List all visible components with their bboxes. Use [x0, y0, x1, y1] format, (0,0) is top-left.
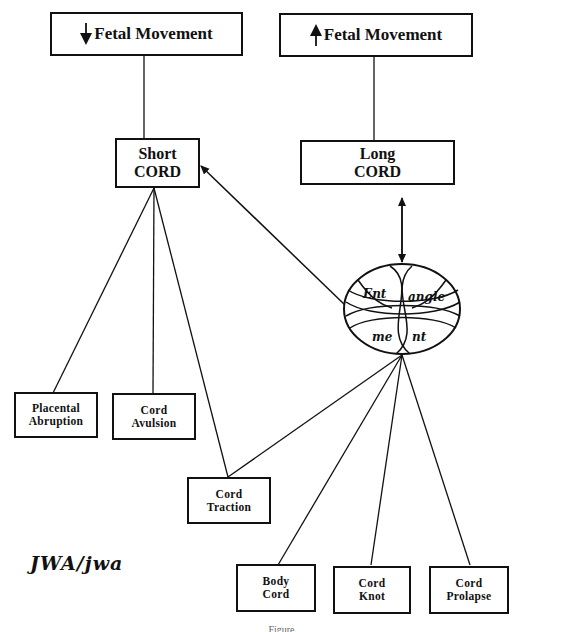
entanglement-label-me: me [372, 330, 392, 344]
outcome-line2: Abruption [29, 415, 83, 428]
increased-fetal-movement-box: Fetal Movement [279, 13, 473, 57]
short-cord-line2: CORD [134, 163, 181, 181]
outcome-line2: Knot [359, 590, 385, 603]
outcome-line1: Cord [456, 577, 483, 590]
outcome-line2: Traction [207, 501, 251, 514]
outcome-line2: Avulsion [131, 417, 176, 430]
entanglement-label-angle: angle [408, 290, 445, 304]
connector-lines [0, 0, 563, 632]
long-cord-box: Long CORD [300, 140, 455, 185]
outcome-line2: Cord [263, 588, 290, 601]
diagram-canvas: Ent angle me nt Fetal Movement Fetal Mov… [0, 0, 563, 632]
cord-prolapse-box: Cord Prolapse [429, 566, 509, 614]
author-signature: JWA/jwa [30, 552, 123, 574]
short-cord-box: Short CORD [115, 138, 200, 188]
outcome-line1: Cord [216, 488, 243, 501]
placental-abruption-box: Placental Abruption [14, 392, 98, 438]
long-cord-line2: CORD [354, 163, 401, 181]
cord-traction-box: Cord Traction [187, 477, 271, 524]
outcome-line1: Cord [359, 577, 386, 590]
outcome-line1: Placental [32, 402, 80, 415]
outcome-line2: Prolapse [447, 590, 492, 603]
figure-caption: Figure [0, 624, 563, 632]
long-cord-line1: Long [360, 145, 396, 163]
arrow-down-icon [80, 23, 92, 45]
entanglement-label-nt: nt [412, 330, 426, 344]
entanglement-label-ent: Ent [363, 287, 386, 301]
outcome-line1: Cord [141, 404, 168, 417]
short-cord-line1: Short [138, 145, 176, 163]
cord-knot-box: Cord Knot [333, 566, 411, 614]
arrow-up-icon [310, 24, 322, 46]
decreased-fetal-movement-box: Fetal Movement [50, 12, 243, 56]
outcome-line1: Body [263, 575, 290, 588]
cord-avulsion-box: Cord Avulsion [112, 393, 196, 440]
body-cord-box: Body Cord [236, 564, 316, 612]
increased-fetal-movement-label: Fetal Movement [324, 26, 442, 45]
decreased-fetal-movement-label: Fetal Movement [94, 25, 212, 44]
